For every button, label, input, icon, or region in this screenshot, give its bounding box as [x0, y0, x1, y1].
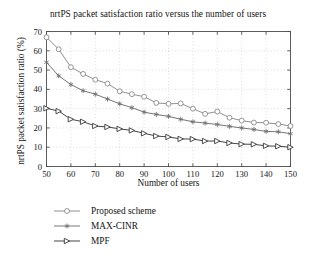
legend-marker-circle-open [52, 204, 82, 218]
chart-legend: Proposed scheme MAX-CINR MPF [52, 203, 156, 248]
svg-text:20: 20 [33, 123, 42, 133]
svg-text:50: 50 [33, 65, 42, 75]
legend-label: MAX-CINR [91, 219, 138, 233]
legend-item-mpf[interactable]: MPF [52, 233, 156, 248]
legend-label: MPF [91, 234, 110, 248]
data-series [44, 35, 293, 150]
svg-text:70: 70 [33, 27, 42, 37]
svg-text:10: 10 [33, 142, 42, 152]
tick-labels: 5060708090100110120130140150010203040506… [33, 27, 297, 179]
svg-text:0: 0 [38, 162, 42, 172]
plot-area: 5060708090100110120130140150010203040506… [0, 0, 316, 255]
legend-marker-triangle-right [52, 234, 82, 248]
legend-item-proposed-scheme[interactable]: Proposed scheme [52, 203, 156, 218]
x-axis-label: Number of users [46, 178, 291, 188]
legend-marker-asterisk [52, 219, 82, 233]
chart-figure: nrtPS packet satisfaction ratio versus t… [0, 0, 316, 255]
svg-text:60: 60 [33, 46, 42, 56]
svg-text:30: 30 [33, 104, 42, 114]
legend-label: Proposed scheme [91, 204, 156, 218]
svg-text:40: 40 [33, 84, 42, 94]
legend-item-max-cinr[interactable]: MAX-CINR [52, 218, 156, 233]
gridlines [47, 32, 291, 167]
